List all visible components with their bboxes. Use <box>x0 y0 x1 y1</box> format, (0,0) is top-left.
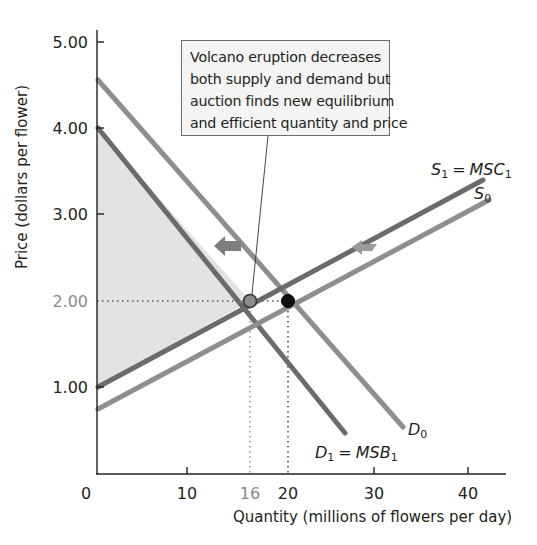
original-equilibrium-point <box>282 295 295 308</box>
x-tick-label: 30 <box>354 484 394 503</box>
x-tick-label: 0 <box>66 484 106 503</box>
callout-line: Volcano eruption decreases <box>190 46 383 68</box>
label-d0: D0 <box>408 420 427 441</box>
x-tick-label: 40 <box>448 484 488 503</box>
callout-line: and efficient quantity and price <box>190 112 383 134</box>
y-tick-label-equilibrium-price: 2.00 <box>28 292 88 311</box>
y-axis-title: Price (dollars per flower) <box>13 89 31 269</box>
x-axis-title: Quantity (millions of flowers per day) <box>233 508 512 526</box>
x-tick-label-original-quantity: 20 <box>268 484 308 503</box>
y-tick-label: 4.00 <box>28 119 88 138</box>
callout-line: auction finds new equilibrium <box>190 90 383 112</box>
y-tick-label: 1.00 <box>28 378 88 397</box>
y-tick-label: 3.00 <box>28 205 88 224</box>
x-tick-label-new-quantity: 16 <box>230 484 270 503</box>
label-d1-msb1: D1=MSB1 <box>315 443 398 464</box>
annotation-callout: Volcano eruption decreases both supply a… <box>181 40 390 136</box>
label-s0: S0 <box>474 184 491 205</box>
y-tick-label: 5.00 <box>28 33 88 52</box>
x-tick-label: 10 <box>167 484 207 503</box>
label-s1-msc1: S1=MSC1 <box>431 160 512 181</box>
new-equilibrium-point <box>244 295 257 308</box>
callout-line: both supply and demand but <box>190 68 383 90</box>
